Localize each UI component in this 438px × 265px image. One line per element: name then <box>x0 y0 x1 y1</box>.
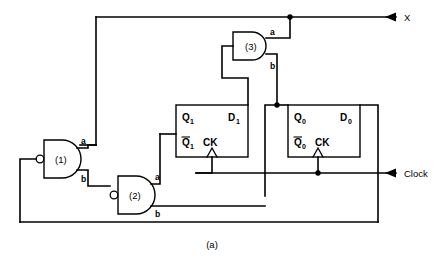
gate-2-pin-b-label: b <box>155 209 160 219</box>
clock-input-label: Clock <box>404 168 428 179</box>
x-arrow-icon <box>385 13 396 22</box>
flipflop-1-q-label: Q <box>182 112 190 123</box>
flipflop-1-d-subscript: 1 <box>236 118 240 125</box>
circuit-schematic-canvas: (1) (2) (3) a b a b a b Q 1 D 1 Q 1 CK Q… <box>0 0 438 265</box>
flipflop-0-d-label: D <box>340 112 347 123</box>
flipflop-0-d-subscript: 0 <box>348 118 352 125</box>
gate-1[interactable] <box>20 140 110 222</box>
flipflop-1-qbar-label: Q <box>182 137 190 148</box>
x-output-label: X <box>404 12 411 23</box>
gate-3-pin-b-label: b <box>270 61 275 71</box>
figure-caption: (a) <box>206 239 218 250</box>
gate1-output-a-net <box>80 17 96 145</box>
x-output-net <box>96 13 396 22</box>
d0-to-bottom-rail-wire <box>360 105 378 222</box>
gate-3-pin-a-label: a <box>270 27 275 37</box>
flipflop-1-ck-label: CK <box>203 137 218 148</box>
flipflop-0-q-subscript: 0 <box>302 118 306 125</box>
gate-1-input-bubble-icon <box>36 155 44 163</box>
circuit-diagram: (1) (2) (3) a b a b a b Q 1 D 1 Q 1 CK Q… <box>0 0 438 265</box>
flipflop-1-d-label: D <box>228 112 235 123</box>
flipflop-0-q-label: Q <box>294 112 302 123</box>
flipflop-0[interactable] <box>265 102 378 222</box>
gate1-feedback-input-wire <box>20 159 36 222</box>
flipflop-0-qbar-label: Q <box>294 137 302 148</box>
flipflop-0-qbar-subscript: 0 <box>302 143 306 150</box>
gate-1-label: (1) <box>55 154 67 165</box>
flipflop-0-ck-label: CK <box>315 137 330 148</box>
q0-feedback-down-wire <box>265 105 277 196</box>
flipflop-1-q-subscript: 1 <box>190 118 194 125</box>
gate-3[interactable] <box>222 17 290 105</box>
clock-ck0-junction-dot <box>315 170 320 175</box>
gate-1-pin-b-label: b <box>81 174 86 184</box>
gate-2-pin-a-label: a <box>155 172 160 182</box>
clock-input-net <box>196 169 396 178</box>
flipflop-1-ck-wire <box>196 157 212 173</box>
flipflop-1-qbar-subscript: 1 <box>190 143 194 150</box>
gate-3-label: (3) <box>245 41 257 52</box>
gate-2-label: (2) <box>129 190 141 201</box>
gate-2-input-bubble-icon <box>110 191 118 199</box>
clock-arrow-icon <box>385 169 396 178</box>
gate-1-pin-a-label: a <box>81 136 86 146</box>
